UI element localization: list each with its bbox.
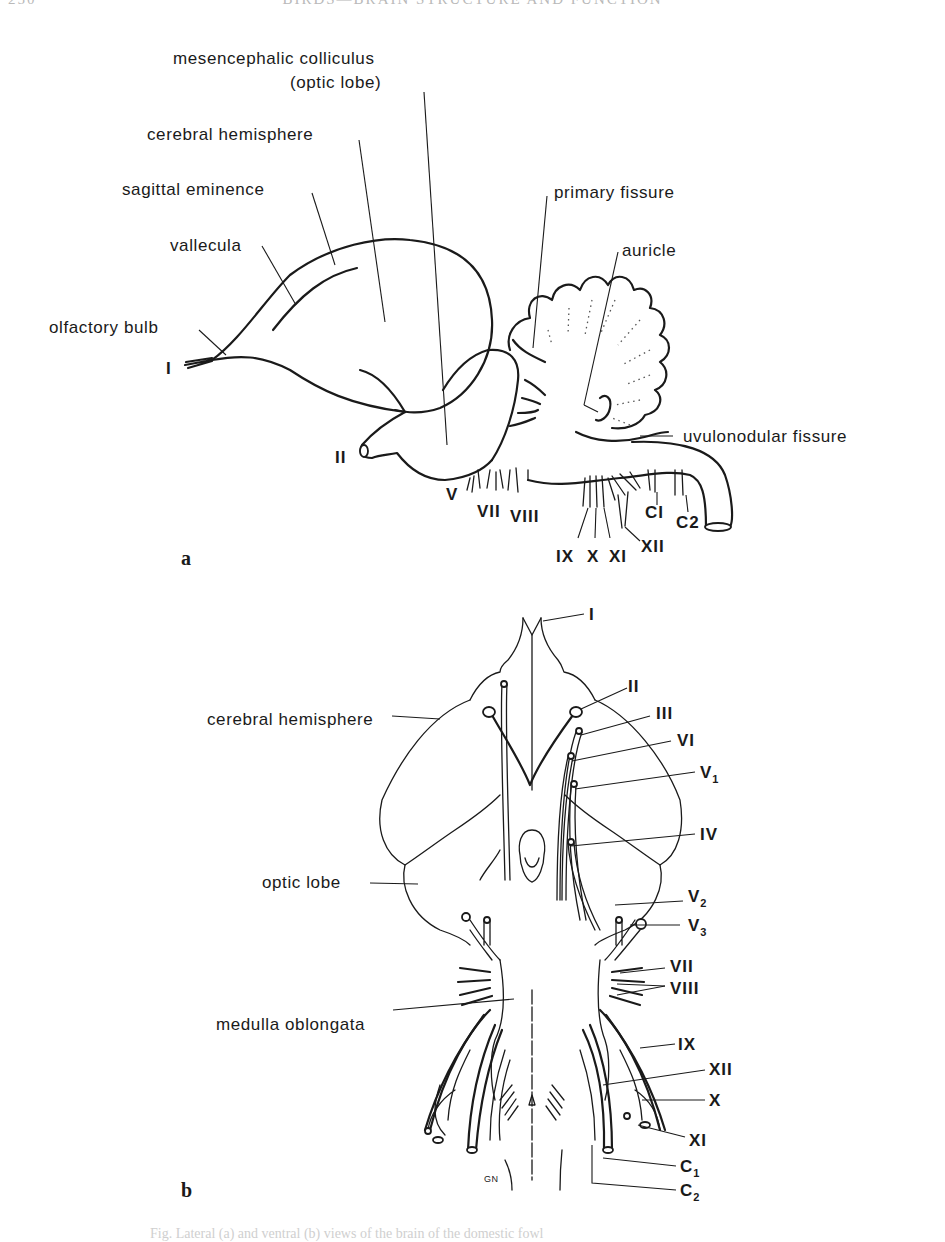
nerve-label-VII-b: VII (670, 957, 694, 976)
label-cerebral-hemisphere-a: cerebral hemisphere (147, 125, 313, 144)
left-optic-nerve-stump (483, 707, 495, 717)
artist-signature: GN (484, 1174, 499, 1184)
optic-nerve-stump (360, 445, 368, 457)
nerve-label-XII-b: XII (709, 1060, 733, 1079)
right-optic-nerve-stump (570, 707, 582, 717)
panel-label-b: b (181, 1179, 192, 1201)
nerve-label-V2-b: V2 (688, 887, 707, 909)
nerve-label-I-b: I (589, 605, 595, 624)
nerve-label-XII-a: XII (641, 537, 665, 556)
nerve-label-I-a: I (166, 359, 172, 378)
panel-b-ventral-view: cerebral hemisphere optic lobe medulla o… (181, 605, 733, 1203)
folium-line (522, 398, 540, 404)
nerve-label-IX-a: IX (556, 547, 574, 566)
label-medulla-oblongata: medulla oblongata (216, 1015, 365, 1034)
left-optic-lobe (404, 865, 470, 945)
label-uvulonodular-fissure: uvulonodular fissure (683, 427, 847, 446)
label-vallecula: vallecula (170, 236, 242, 255)
folium-line (510, 418, 535, 426)
diencephalon-outline (360, 412, 492, 480)
panel-label-a: a (181, 547, 191, 569)
nerve-label-C1-b: C1 (680, 1157, 700, 1179)
nerve-label-IX-b: IX (678, 1035, 696, 1054)
olfactory-nerve-I (185, 358, 212, 368)
cerebral-hemisphere-outline (212, 239, 492, 412)
sagittal-eminence-ridge (273, 268, 357, 330)
cerebellar-folia-dotted-lines (548, 300, 650, 425)
nerves-VII-VIII (458, 968, 644, 1005)
label-auricle: auricle (622, 241, 676, 260)
nerve-label-V3-b: V3 (688, 916, 707, 938)
hemisphere-underside (212, 357, 405, 412)
label-optic-lobe-parenthetical: (optic lobe) (290, 73, 381, 92)
panel-a-leader-lines (199, 92, 688, 541)
right-optic-lobe (595, 865, 661, 945)
caudal-nerves-right (580, 1010, 665, 1153)
hypophysis (519, 830, 544, 882)
nerve-label-VIII-b: VIII (670, 979, 700, 998)
nerve-label-C2-a: C2 (676, 513, 700, 532)
label-mesencephalic-colliculus: mesencephalic colliculus (173, 49, 375, 68)
label-sagittal-eminence: sagittal eminence (122, 180, 265, 199)
nerve-label-V-a: V (446, 485, 458, 504)
nerve-label-XI-a: XI (609, 547, 627, 566)
nerve-label-V1-b: V1 (700, 763, 719, 785)
optic-lobe-outline (443, 350, 518, 460)
nerve-label-VII-a: VII (477, 502, 501, 521)
label-cerebral-hemisphere-b: cerebral hemisphere (207, 710, 373, 729)
panel-a-lateral-view: mesencephalic colliculus (optic lobe) ce… (49, 49, 847, 569)
right-trigeminal-nerve (605, 920, 640, 960)
nerve-label-II-a: II (335, 448, 346, 467)
nerve-label-III-b: III (656, 704, 673, 723)
nerve-label-C1-a: CI (645, 503, 664, 522)
spinal-cord-cut-end (705, 523, 731, 531)
figure-caption-cut-off: Fig. Lateral (a) and ventral (b) views o… (150, 1226, 940, 1242)
left-trigeminal-nerve (470, 920, 500, 960)
left-cerebral-hemisphere (380, 700, 500, 865)
folium-line (518, 410, 538, 413)
caudal-nerves-left (425, 1010, 510, 1153)
nerve-label-II-b: II (628, 677, 639, 696)
hypophysis-inner (525, 858, 539, 867)
label-olfactory-bulb: olfactory bulb (49, 318, 159, 337)
nerve-label-X-b: X (709, 1091, 721, 1110)
folium-line (525, 380, 545, 395)
primary-fissure-curve (513, 340, 545, 362)
nerve-label-VIII-a: VIII (510, 507, 540, 526)
label-optic-lobe-b: optic lobe (262, 873, 341, 892)
nerve-label-XI-b: XI (689, 1131, 707, 1150)
nerve-label-IV-b: IV (700, 825, 718, 844)
label-primary-fissure: primary fissure (554, 183, 674, 202)
nerve-label-VI-b: VI (677, 731, 695, 750)
nerve-label-C2-b: C2 (680, 1181, 700, 1203)
auricle (596, 396, 610, 420)
nerve-tracts-right (557, 728, 600, 930)
nerve-label-X-a: X (587, 547, 599, 566)
olfactory-bulb-tips (523, 618, 541, 635)
